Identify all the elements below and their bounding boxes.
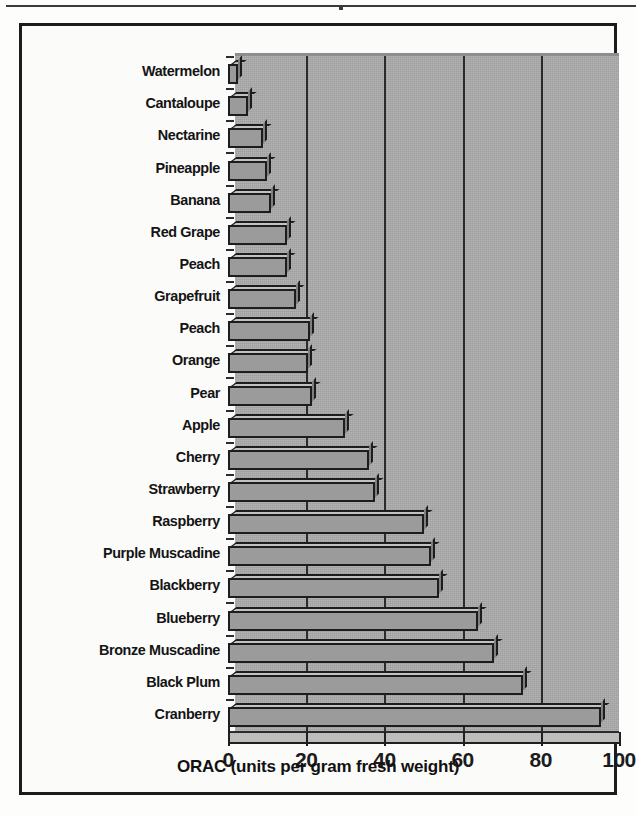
bar-top-face (231, 478, 383, 482)
bar-side-face (287, 216, 291, 241)
y-tick-11 (226, 410, 234, 412)
y-tick-4 (226, 185, 234, 187)
y-tick-17 (226, 602, 234, 604)
bar-top-face (231, 703, 610, 707)
bar-peach (228, 321, 310, 341)
bar-side-face (248, 87, 252, 112)
x-tick-60 (463, 732, 465, 746)
category-label-apple: Apple (30, 416, 220, 433)
x-axis-line (228, 742, 619, 744)
bar-blackberry (228, 578, 439, 598)
y-tick-14 (226, 506, 234, 508)
bar-side-face (312, 377, 316, 402)
bar-black-plum (228, 675, 523, 695)
bar-orange (228, 353, 308, 373)
category-label-black-plum: Black Plum (30, 673, 220, 690)
bar-side-face (494, 634, 498, 659)
y-tick-5 (226, 217, 234, 219)
bar-side-face (271, 184, 275, 209)
bar-side-face (424, 505, 428, 530)
bar-purple-muscadine (228, 546, 431, 566)
x-tick-40 (384, 732, 386, 746)
bar-bronze-muscadine (228, 643, 494, 663)
bar-top-face (231, 349, 317, 353)
bar-peach (228, 257, 287, 277)
bar-strawberry (228, 482, 375, 502)
y-tick-15 (226, 538, 234, 540)
y-tick-2 (226, 120, 234, 122)
bar-cantaloupe (228, 96, 248, 116)
bar-side-face (369, 441, 373, 466)
category-label-pineapple: Pineapple (30, 159, 220, 176)
category-label-peach: Peach (30, 319, 220, 336)
page-rule-tick (339, 6, 343, 10)
bar-top-face (231, 639, 503, 643)
category-label-nectarine: Nectarine (30, 126, 220, 143)
bar-top-face (231, 446, 377, 450)
bar-banana (228, 193, 271, 213)
category-label-watermelon: Watermelon (30, 62, 220, 79)
category-label-raspberry: Raspberry (30, 512, 220, 529)
category-label-cherry: Cherry (30, 448, 220, 465)
y-tick-20 (226, 699, 234, 701)
bar-top-face (231, 285, 305, 289)
y-tick-3 (226, 152, 234, 154)
y-tick-12 (226, 442, 234, 444)
bar-raspberry (228, 514, 424, 534)
bar-top-face (231, 574, 448, 578)
y-tick-10 (226, 377, 234, 379)
x-axis-title: ORAC (units per gram fresh weight) (19, 757, 617, 777)
y-tick-19 (226, 667, 234, 669)
bar-top-face (231, 671, 532, 675)
bar-top-face (231, 542, 440, 546)
bar-grapefruit (228, 289, 296, 309)
bar-top-face (231, 510, 432, 514)
category-label-cranberry: Cranberry (30, 705, 220, 722)
bar-side-face (267, 152, 271, 177)
bar-top-face (231, 221, 295, 225)
bar-side-face (287, 248, 291, 273)
category-label-bronze-muscadine: Bronze Muscadine (30, 641, 220, 658)
chart-figure-frame: 020406080100 WatermelonCantaloupeNectari… (19, 23, 617, 795)
bar-top-face (231, 382, 321, 386)
y-tick-7 (226, 281, 234, 283)
bar-red-grape (228, 225, 287, 245)
category-label-blueberry: Blueberry (30, 609, 220, 626)
gridline-80 (541, 56, 543, 731)
bar-cherry (228, 450, 369, 470)
x-tick-100 (619, 732, 621, 746)
bar-top-face (231, 253, 295, 257)
scanned-page: 020406080100 WatermelonCantaloupeNectari… (0, 0, 636, 817)
y-tick-13 (226, 474, 234, 476)
y-tick-18 (226, 635, 234, 637)
category-label-blackberry: Blackberry (30, 576, 220, 593)
y-tick-8 (226, 313, 234, 315)
x-tick-20 (306, 732, 308, 746)
category-label-orange: Orange (30, 351, 220, 368)
x-tick-0 (228, 732, 230, 746)
bar-side-face (375, 473, 379, 498)
bar-cranberry (228, 707, 601, 727)
category-label-purple-muscadine: Purple Muscadine (30, 544, 220, 561)
bar-top-face (231, 607, 487, 611)
y-tick-6 (226, 249, 234, 251)
bar-top-face (231, 414, 354, 418)
category-label-banana: Banana (30, 191, 220, 208)
y-tick-0 (226, 56, 234, 58)
bar-pineapple (228, 161, 267, 181)
bar-watermelon (228, 64, 238, 84)
y-tick-9 (226, 345, 234, 347)
bar-pear (228, 386, 312, 406)
y-tick-1 (226, 88, 234, 90)
category-label-red-grape: Red Grape (30, 223, 220, 240)
bar-apple (228, 418, 345, 438)
category-label-pear: Pear (30, 384, 220, 401)
bar-blueberry (228, 611, 478, 631)
x-tick-80 (541, 732, 543, 746)
category-label-peach: Peach (30, 255, 220, 272)
category-label-grapefruit: Grapefruit (30, 287, 220, 304)
bar-nectarine (228, 128, 263, 148)
category-label-strawberry: Strawberry (30, 480, 220, 497)
y-tick-16 (226, 570, 234, 572)
page-top-rule (6, 5, 636, 7)
